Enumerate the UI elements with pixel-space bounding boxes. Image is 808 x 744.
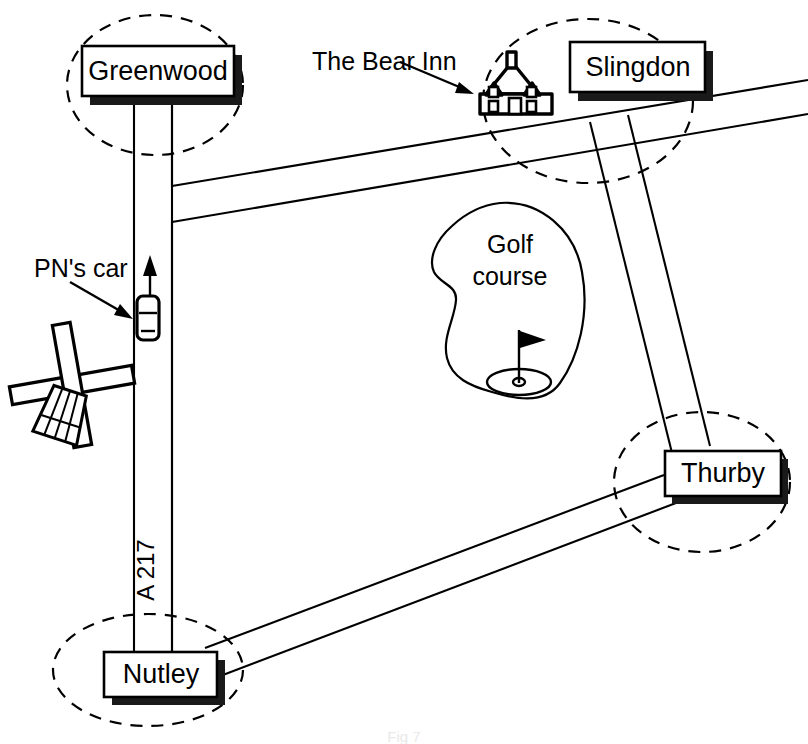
bear-inn-label: The Bear Inn [312,47,457,75]
road-nutley-thurby [205,475,676,678]
region-rings [53,15,790,726]
bear-inn-group: The Bear Inn [312,47,552,114]
sign-slingdon-label: Slingdon [585,52,690,82]
sign-nutley-label: Nutley [123,659,200,689]
sign-nutley[interactable]: Nutley [104,652,225,705]
pn-car-label: PN's car [34,254,128,282]
map-canvas: Golf course [0,0,808,744]
golf-course-label-line2: course [472,262,547,290]
sign-greenwood[interactable]: Greenwood [82,46,242,105]
golf-flag-icon [520,331,546,348]
sign-thurby-label: Thurby [681,458,766,488]
figure-caption: Fig 7 [387,728,420,744]
car-icon [137,296,159,340]
figure-map-root: Golf course [0,0,808,744]
sign-greenwood-label: Greenwood [88,56,228,86]
sign-thurby[interactable]: Thurby [665,451,788,504]
road-label-a217: A 217 [132,539,159,600]
pn-car-leader-line [70,282,122,312]
bear-inn-arrowhead [455,82,474,94]
golf-course-area: Golf course [432,203,585,399]
road-slingdon-thurby [590,115,710,453]
golf-course-label-line1: Golf [487,230,533,258]
road-network [134,80,808,678]
pn-car-arrowhead [114,304,133,319]
house-icon [480,52,552,114]
sign-slingdon[interactable]: Slingdon [570,42,713,101]
windmill-icon [0,311,146,460]
